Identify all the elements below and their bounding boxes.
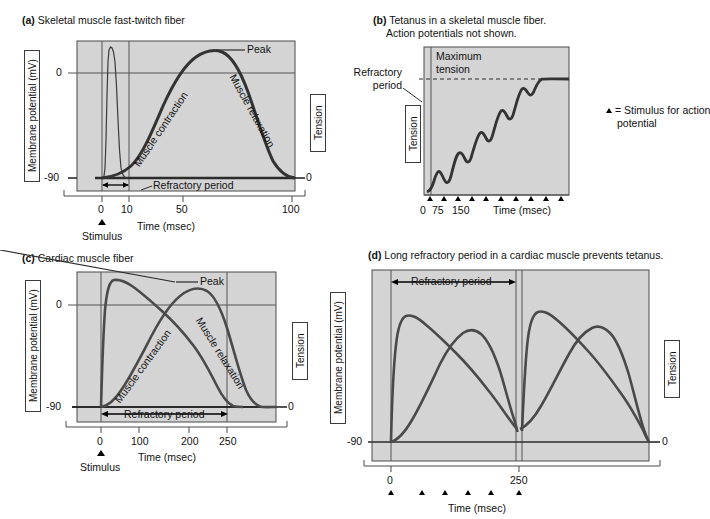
panel-d: (d) Long refractory period in a cardiac … [348, 240, 696, 519]
panel-b-stimulus-marker-icon-2 [441, 196, 447, 201]
panel-c-x-axis-label: Time (msec) [138, 451, 196, 464]
panel-a-y-axis-right-label: Tension [310, 94, 326, 152]
panel-b-stimulus-marker-icon-1 [427, 196, 433, 201]
panel-b-max-tension-line2: tension [436, 63, 482, 76]
panel-d-stimulus-marker-icon-3 [442, 490, 448, 495]
panel-c-peak-label: Peak [200, 275, 224, 288]
panel-a: (a) Skeletal muscle fast-twitch fiber [0, 0, 348, 250]
panel-a-xtick-10: 10 [121, 203, 133, 215]
panel-c-stimulus-label: Stimulus [80, 461, 120, 474]
panel-c-refractory-label: Refractory period [124, 408, 205, 421]
panel-b-stimulus-marker-icon-6 [498, 196, 504, 201]
panel-b-refractory-line2: period [348, 79, 402, 92]
panel-d-xtick-0: 0 [387, 474, 393, 486]
panel-c-xtick-200: 200 [181, 435, 199, 447]
panel-a-ytick-right-0: 0 [306, 171, 312, 183]
panel-c-ytick-neg90: -90 [46, 400, 61, 412]
legend-text-line1: = Stimulus for action [615, 104, 710, 116]
panel-a-peak-label: Peak [247, 43, 271, 56]
panel-d-stimulus-marker-icon-6 [516, 490, 522, 495]
panel-d-refractory-label: Refractory period [411, 275, 492, 288]
panel-b-stimulus-marker-icon-9 [543, 196, 549, 201]
panel-d-y-axis-label: Membrane potential (mV) [330, 292, 346, 424]
panel-b-refractory-line1: Refractory [348, 66, 402, 79]
panel-c-ytick-0: 0 [56, 298, 62, 310]
panel-b-stimulus-marker-icon-5 [483, 196, 489, 201]
panel-b-max-tension-line1: Maximum [436, 50, 482, 63]
panel-d-ytick-right-0: 0 [662, 435, 668, 447]
panel-a-refractory-label: Refractory period [153, 179, 234, 192]
panel-d-y-axis-right-label: Tension [664, 340, 680, 398]
panel-c-y-axis-right-label: Tension [292, 322, 308, 380]
panel-c-xtick-100: 100 [131, 435, 149, 447]
panel-a-xtick-0: 0 [98, 203, 104, 215]
panel-d-ytick-neg90: -90 [347, 435, 362, 447]
panel-b-stimulus-marker-icon-3 [455, 196, 461, 201]
legend-text-line2: potential [617, 117, 710, 130]
panel-d-stimulus-marker-icon-4 [465, 490, 471, 495]
panel-d-stimulus-marker-icon-1 [388, 490, 394, 495]
panel-c-plot [0, 250, 348, 519]
panel-a-stimulus-label: Stimulus [82, 230, 122, 243]
panel-d-xtick-250: 250 [510, 474, 528, 486]
panel-b-legend: = Stimulus for action potential [606, 104, 710, 130]
panel-d-stimulus-marker-icon-2 [419, 490, 425, 495]
panel-b-xtick-0: 0 [420, 204, 426, 216]
panel-a-ytick-0: 0 [56, 66, 62, 78]
panel-a-xtick-100: 100 [282, 203, 300, 215]
panel-b-refractory-label: Refractory period [348, 66, 402, 92]
panel-c-xtick-0: 0 [97, 435, 103, 447]
panel-c: (c) Cardiac muscle fiber Mem [0, 250, 348, 519]
legend-triangle-icon [606, 108, 612, 113]
panel-c-xtick-250: 250 [219, 435, 237, 447]
panel-b-xtick-150: 150 [452, 204, 470, 216]
panel-b-stimulus-marker-icon-4 [469, 196, 475, 201]
panel-a-y-axis-label: Membrane potential (mV) [24, 50, 40, 182]
panel-a-xtick-50: 50 [176, 203, 188, 215]
panel-b-stimulus-marker-icon-7 [513, 196, 519, 201]
panel-c-y-axis-label: Membrane potential (mV) [25, 280, 41, 412]
panel-b-x-axis-label: Time (msec) [493, 204, 551, 217]
panel-b-stimulus-marker-icon-10 [558, 196, 564, 201]
panel-b-xtick-75: 75 [432, 204, 444, 216]
panel-c-stimulus-marker-icon [97, 450, 105, 456]
panel-b-max-tension-label: Maximum tension [436, 50, 482, 76]
panel-d-stimulus-marker-icon-5 [488, 490, 494, 495]
panel-b-y-axis-label: Tension [405, 105, 421, 163]
panel-b: (b) Tetanus in a skeletal muscle fiber. … [348, 0, 696, 240]
panel-d-x-axis-label: Time (msec) [448, 502, 506, 515]
panel-c-ytick-right-0: 0 [288, 400, 294, 412]
panel-a-x-axis-label: Time (msec) [137, 220, 195, 233]
panel-a-ytick-neg90: -90 [44, 171, 59, 183]
panel-a-stimulus-marker-icon [98, 219, 106, 225]
panel-b-stimulus-marker-icon-8 [528, 196, 534, 201]
